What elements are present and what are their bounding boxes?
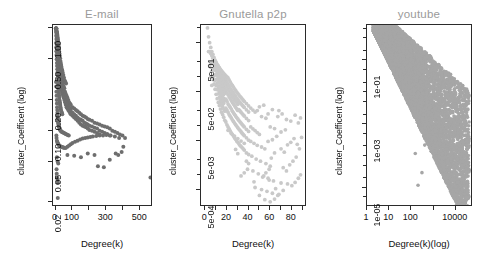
x-tick	[237, 206, 238, 210]
y-tick	[48, 27, 52, 28]
x-tick	[455, 206, 456, 210]
y-minor-tick	[197, 125, 200, 126]
x-axis-label-email: Degree(k)	[52, 238, 152, 249]
x-tick	[122, 206, 123, 210]
x-tick-label: 300	[98, 212, 113, 222]
y-minor-tick	[363, 28, 366, 29]
figure-root: E-mail 01003005001.000.500.200.100.050.0…	[0, 0, 482, 259]
y-minor-tick	[197, 76, 200, 77]
scatter-points-email	[53, 25, 152, 206]
y-tick-label: 0.05	[58, 174, 68, 192]
y-minor-tick	[363, 177, 366, 178]
x-axis-label-youtube: Degree(k)(log)	[366, 238, 472, 249]
y-minor-tick	[363, 50, 366, 51]
y-minor-tick	[197, 159, 200, 160]
x-tick	[105, 206, 106, 210]
y-tick-label: 5e-03	[211, 156, 221, 179]
x-tick	[71, 206, 72, 210]
panel-title-email: E-mail	[52, 8, 152, 20]
y-tick	[362, 187, 366, 188]
x-tick	[269, 206, 270, 210]
x-tick-label: 500	[132, 212, 147, 222]
y-minor-tick	[363, 91, 366, 92]
y-tick	[48, 99, 52, 100]
y-minor-tick	[363, 196, 366, 197]
x-axis-label-gnutella: Degree(k)	[200, 238, 306, 249]
y-axis-label-email: cluster_Coefficent (log)	[16, 87, 26, 175]
y-tick-label: 0.10	[58, 144, 68, 162]
y-tick-label: 1e-03	[377, 140, 387, 163]
x-tick	[55, 206, 56, 210]
y-axis-label-gnutella: cluster_Coefficent (log)	[168, 87, 178, 175]
x-tick	[248, 206, 249, 210]
y-tick-label: 1e-01	[377, 76, 387, 99]
y-tick	[196, 189, 200, 190]
x-tick	[88, 206, 89, 210]
panel-youtube: youtube 110100100001e-011e-031e-05 clust…	[321, 0, 482, 259]
y-tick	[362, 123, 366, 124]
x-tick-label: 80	[286, 212, 296, 222]
x-tick	[139, 206, 140, 210]
y-tick-label: 5e-01	[211, 58, 221, 81]
y-minor-tick	[363, 37, 366, 38]
y-tick	[48, 161, 52, 162]
x-tick	[280, 206, 281, 210]
y-minor-tick	[197, 110, 200, 111]
x-tick	[302, 206, 303, 210]
y-tick	[48, 130, 52, 131]
y-minor-tick	[363, 114, 366, 115]
y-tick	[196, 42, 200, 43]
x-tick-label: 1	[363, 212, 368, 222]
plot-area-youtube	[366, 24, 472, 206]
x-tick-label: 10000	[442, 212, 467, 222]
y-tick	[196, 91, 200, 92]
y-tick-label: 0.02	[58, 215, 68, 233]
x-tick-label: 100	[403, 212, 418, 222]
y-minor-tick	[363, 101, 366, 102]
x-tick	[388, 206, 389, 210]
x-tick-label: 60	[264, 212, 274, 222]
y-minor-tick	[197, 61, 200, 62]
y-axis-label-youtube: cluster_Coefficent (log)	[334, 87, 344, 175]
y-tick	[196, 140, 200, 141]
panel-gnutella: Gnutella p2p 0204060805e-015e-025e-035e-…	[160, 0, 321, 259]
y-minor-tick	[363, 69, 366, 70]
y-tick-label: 5e-04	[211, 205, 221, 228]
x-tick-label: 20	[221, 212, 231, 222]
scatter-points-youtube	[367, 25, 472, 206]
y-minor-tick	[197, 174, 200, 175]
panel-title-youtube: youtube	[366, 8, 472, 20]
y-minor-tick	[363, 145, 366, 146]
x-tick	[291, 206, 292, 210]
y-tick	[362, 59, 366, 60]
y-minor-tick	[197, 27, 200, 28]
x-tick-label: 40	[243, 212, 253, 222]
y-minor-tick	[363, 82, 366, 83]
y-tick-label: 0.20	[58, 113, 68, 131]
y-minor-tick	[363, 155, 366, 156]
y-minor-tick	[363, 165, 366, 166]
x-tick	[433, 206, 434, 210]
y-tick-label: 1.00	[58, 41, 68, 59]
y-tick	[48, 58, 52, 59]
y-tick-label: 0.50	[58, 72, 68, 90]
x-tick	[258, 206, 259, 210]
y-minor-tick	[363, 133, 366, 134]
y-tick-label: 1e-05	[377, 203, 387, 226]
y-tick-label: 5e-02	[211, 107, 221, 130]
x-tick	[366, 206, 367, 210]
y-tick	[48, 201, 52, 202]
panel-email: E-mail 01003005001.000.500.200.100.050.0…	[0, 0, 160, 259]
panel-title-gnutella: Gnutella p2p	[200, 8, 306, 20]
x-tick	[410, 206, 411, 210]
x-tick	[226, 206, 227, 210]
